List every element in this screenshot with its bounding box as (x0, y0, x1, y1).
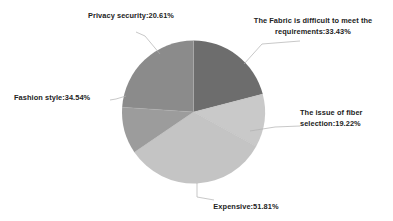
pie-chart-figure: The Fabric is difficult to meet the requ… (0, 0, 393, 221)
pie-label-privacy-security: Privacy security:20.61% (66, 11, 196, 22)
leader-line-privacy (136, 32, 160, 54)
pie-label-expensive: Expensive:51.81% (186, 202, 306, 213)
leader-line-fabric (244, 41, 300, 64)
pie-label-fabric: The Fabric is difficult to meet the requ… (243, 16, 383, 37)
pie-label-fiber-selection: The issue of fiber selection:19.22% (300, 108, 392, 129)
leader-line-expensive (197, 183, 214, 200)
pie-label-fashion-style: Fashion style:34.54% (14, 93, 126, 104)
